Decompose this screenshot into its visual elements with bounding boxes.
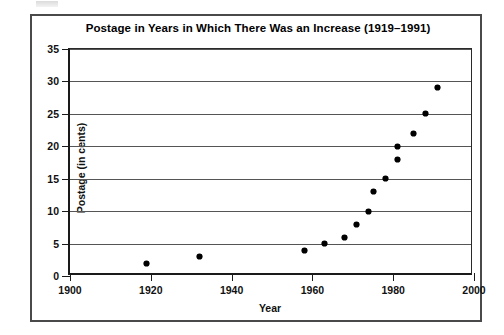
gridline-y-35 (70, 49, 471, 50)
x-tick-1920 (151, 273, 152, 281)
data-point (395, 157, 400, 162)
data-point (411, 131, 416, 136)
y-tick-label-0: 0 (53, 270, 59, 282)
data-point (366, 209, 371, 214)
y-tick-0 (62, 276, 70, 277)
y-tick-20 (62, 146, 70, 147)
scan-artifact (36, 1, 58, 7)
data-point (435, 85, 440, 90)
x-tick-2000 (474, 273, 475, 281)
gridline-y-15 (70, 179, 471, 180)
data-point (322, 241, 327, 246)
data-point (144, 261, 149, 266)
x-tick-label-1980: 1980 (382, 284, 405, 296)
y-tick-label-5: 5 (53, 238, 59, 250)
gridline-y-5 (70, 244, 471, 245)
x-tick-1940 (232, 273, 233, 281)
x-tick-1960 (312, 273, 313, 281)
y-tick-label-10: 10 (47, 205, 59, 217)
x-tick-1980 (393, 273, 394, 281)
y-tick-label-30: 30 (47, 75, 59, 87)
y-tick-25 (62, 114, 70, 115)
data-point (395, 144, 400, 149)
data-point (302, 248, 307, 253)
y-tick-10 (62, 211, 70, 212)
gridline-y-25 (70, 114, 471, 115)
y-tick-15 (62, 179, 70, 180)
data-point (354, 222, 359, 227)
gridline-y-10 (70, 211, 471, 212)
x-tick-label-2000: 2000 (462, 284, 485, 296)
chart-title: Postage in Years in Which There Was an I… (32, 22, 484, 34)
x-tick-label-1960: 1960 (301, 284, 324, 296)
y-tick-5 (62, 244, 70, 245)
x-tick-1900 (70, 273, 71, 281)
data-point (423, 111, 428, 116)
y-tick-label-15: 15 (47, 173, 59, 185)
data-point (383, 176, 388, 181)
y-tick-30 (62, 81, 70, 82)
data-point (371, 189, 376, 194)
x-tick-label-1900: 1900 (58, 284, 81, 296)
data-point (197, 254, 202, 259)
plot-inner: 05101520253035190019201940196019802000 (70, 49, 471, 273)
y-tick-35 (62, 49, 70, 50)
gridline-y-30 (70, 81, 471, 82)
x-tick-label-1940: 1940 (220, 284, 243, 296)
y-tick-label-35: 35 (47, 43, 59, 55)
x-tick-label-1920: 1920 (139, 284, 162, 296)
data-point (342, 235, 347, 240)
chart-figure: Postage in Years in Which There Was an I… (30, 14, 482, 322)
plot-area: 05101520253035190019201940196019802000 (68, 48, 472, 275)
gridline-y-20 (70, 146, 471, 147)
x-axis-title: Year (68, 302, 472, 314)
y-tick-label-20: 20 (47, 140, 59, 152)
y-tick-label-25: 25 (47, 108, 59, 120)
